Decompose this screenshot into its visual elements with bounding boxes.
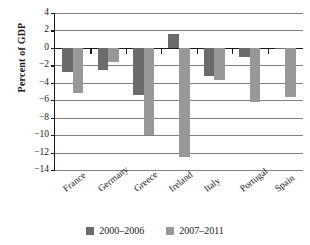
y-tick-mark: [51, 65, 55, 66]
x-axis-label: Greece: [132, 169, 159, 193]
y-tick-label: −6: [39, 95, 49, 105]
y-tick-mark: [51, 135, 55, 136]
bar: [133, 48, 144, 95]
y-axis-line: [54, 13, 55, 170]
y-tick-label: −12: [34, 148, 49, 158]
x-tick-mark: [268, 48, 269, 54]
gridline: [55, 30, 303, 31]
bar: [179, 48, 190, 157]
y-tick-mark: [51, 30, 55, 31]
y-tick-mark: [51, 48, 55, 49]
y-tick-label: 4: [44, 8, 49, 18]
legend: 2000–20062007–2011: [0, 226, 310, 236]
bar-chart: Percent of GDP 420−2−4−6−8−10−12−14 Fran…: [0, 0, 310, 245]
y-tick-label: −8: [39, 113, 49, 123]
bar: [239, 48, 250, 57]
y-axis-title: Percent of GDP: [16, 0, 27, 123]
bar: [98, 48, 109, 70]
x-tick-mark: [161, 48, 162, 54]
y-tick-mark: [51, 83, 55, 84]
bar: [250, 48, 261, 102]
bar: [285, 48, 296, 97]
y-tick-mark: [51, 118, 55, 119]
gridline: [55, 13, 303, 14]
legend-swatch-icon: [166, 227, 174, 235]
y-tick-label: −2: [39, 61, 49, 71]
x-tick-mark: [197, 48, 198, 54]
legend-label: 2000–2006: [99, 226, 144, 236]
bar: [62, 48, 73, 72]
x-axis-label: France: [61, 170, 88, 194]
y-tick-label: 0: [44, 43, 49, 53]
y-tick-mark: [51, 170, 55, 171]
y-tick-label: −4: [39, 78, 49, 88]
y-tick-mark: [51, 153, 55, 154]
y-tick-label: −14: [34, 165, 49, 175]
bar: [108, 48, 119, 62]
x-axis-label: Germany: [96, 164, 130, 194]
y-tick-label: −10: [34, 130, 49, 140]
legend-label: 2007–2011: [179, 226, 224, 236]
bar: [144, 48, 155, 135]
x-tick-mark: [126, 48, 127, 54]
x-tick-mark: [232, 48, 233, 54]
y-tick-mark: [51, 13, 55, 14]
bar: [275, 48, 286, 49]
bar: [214, 48, 225, 80]
bar: [204, 48, 215, 76]
x-axis-label: Italy: [202, 175, 222, 194]
plot-area: 420−2−4−6−8−10−12−14 FranceGermanyGreece…: [55, 13, 303, 170]
legend-swatch-icon: [86, 227, 94, 235]
x-axis-label: Ireland: [167, 169, 194, 193]
bar: [73, 48, 84, 93]
legend-item: 2007–2011: [166, 226, 224, 236]
x-axis-label: Spain: [273, 173, 296, 194]
bar: [168, 34, 179, 48]
x-tick-mark: [90, 48, 91, 54]
y-tick-label: 2: [44, 26, 49, 36]
legend-item: 2000–2006: [86, 226, 144, 236]
y-tick-mark: [51, 100, 55, 101]
